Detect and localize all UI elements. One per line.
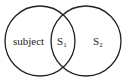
- left-set-label: subject: [13, 35, 44, 47]
- venn-diagram: subject S1 S2: [0, 0, 126, 83]
- right-set-label: S2: [93, 35, 103, 49]
- intersection-label: S1: [57, 35, 67, 49]
